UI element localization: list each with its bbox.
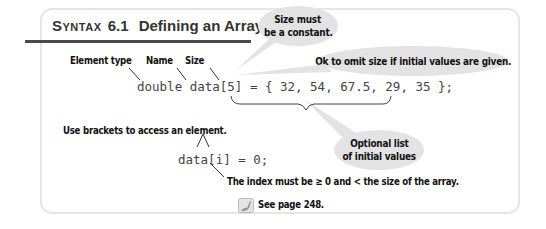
label-index-rule: The index must be ≥ 0 and < the size of … — [227, 175, 459, 187]
label-use-brackets: Use brackets to access an element. — [63, 124, 227, 136]
code-declaration: double data[5] = { 32, 54, 67.5, 29, 35 … — [137, 79, 453, 94]
see-page-link[interactable]: See page 248. — [258, 198, 324, 210]
label-name: Name — [146, 54, 173, 66]
annotation-lines — [0, 0, 546, 229]
kangaroo-icon — [238, 198, 254, 213]
code-access: data[i] = 0; — [178, 152, 268, 167]
label-size: Size — [185, 54, 204, 66]
label-element-type: Element type — [70, 54, 132, 66]
